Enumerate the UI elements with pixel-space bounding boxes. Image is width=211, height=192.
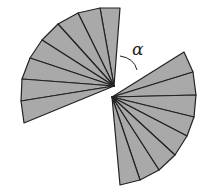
upper-sector-fan [21, 8, 120, 123]
sector-diagram: α [0, 0, 211, 192]
angle-label-alpha: α [132, 39, 144, 59]
lower-sector-fan [112, 52, 196, 185]
